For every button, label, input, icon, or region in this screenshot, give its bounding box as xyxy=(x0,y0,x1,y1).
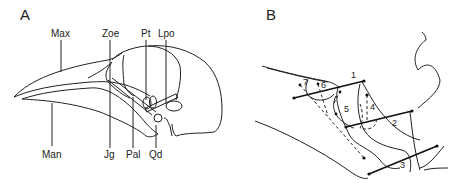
jugal-bar-2 xyxy=(112,78,156,112)
label-jg: Jg xyxy=(104,149,115,160)
panel-b-label: B xyxy=(266,6,276,23)
label-zoe: Zoe xyxy=(102,28,120,39)
panel-a-label: A xyxy=(20,6,30,23)
maxilla-lower-edge xyxy=(14,82,150,97)
panel-b: B xyxy=(255,6,448,179)
quadrate-lobe-3 xyxy=(154,114,162,122)
muscle-label-6: 6 xyxy=(321,80,326,90)
orbit-inner xyxy=(123,55,134,96)
leader-lines xyxy=(52,40,166,148)
orbit-rim xyxy=(148,46,181,100)
label-pt: Pt xyxy=(141,28,151,39)
jaw-outline xyxy=(255,32,448,179)
muscle-line-2 xyxy=(346,111,412,127)
muscle-vectors xyxy=(292,79,438,175)
muscle-label-1: 1 xyxy=(351,70,356,80)
label-man: Man xyxy=(42,149,61,160)
muscle-label-4: 4 xyxy=(370,102,375,112)
label-pal: Pal xyxy=(126,149,140,160)
muscle-label-2: 2 xyxy=(392,118,397,128)
nasal-line xyxy=(88,62,112,78)
muscle-label-7: 7 xyxy=(303,77,308,87)
muscle-label-5: 5 xyxy=(344,104,349,114)
label-max: Max xyxy=(51,28,70,39)
mandible-upper-edge xyxy=(22,88,158,134)
figure: A xyxy=(0,0,465,190)
quadrate-edge xyxy=(164,118,172,136)
label-lpo: Lpo xyxy=(158,28,175,39)
muscle-label-3: 3 xyxy=(400,160,405,170)
panel-a: A xyxy=(14,6,222,160)
skull-drawing xyxy=(14,46,222,137)
mandible-lower-edge xyxy=(22,99,158,137)
label-qd: Qd xyxy=(149,149,162,160)
postorbital-lobe xyxy=(166,101,182,111)
pterygoid-bar xyxy=(145,94,178,112)
